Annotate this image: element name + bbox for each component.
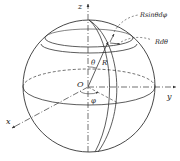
- latitude-circle-lower: [41, 44, 137, 53]
- y-axis-label: y: [166, 92, 172, 101]
- z-axis-label: z: [77, 2, 83, 11]
- phi-arc: [80, 91, 98, 94]
- origin-label: O: [77, 80, 84, 89]
- element-arrow-phi: [110, 34, 114, 42]
- arc-phi-label: Rsinθdφ: [139, 11, 168, 19]
- arc-theta-label: Rdθ: [154, 38, 168, 46]
- x-axis-label: x: [6, 117, 11, 126]
- latitude-circle-upper: [45, 29, 133, 38]
- sphere-diagram: z y x O θ R φ Rsinθdφ Rdθ: [0, 0, 180, 161]
- theta-arc: [88, 67, 96, 68]
- leader-rsin: [114, 15, 138, 32]
- theta-label: θ: [91, 59, 96, 67]
- latitude-circle-upper-front: [45, 38, 133, 47]
- element-arrow-theta: [110, 43, 120, 44]
- sphere-outline: [23, 20, 155, 152]
- phi-label: φ: [91, 97, 96, 105]
- equator-front: [23, 87, 155, 105]
- radius-label: R: [101, 59, 108, 67]
